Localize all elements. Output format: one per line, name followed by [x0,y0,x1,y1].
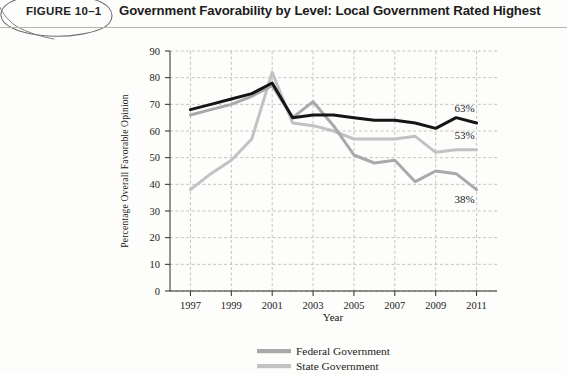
series-line-local-government [190,83,476,128]
end-value-label: 53% [455,129,475,141]
page-title: Government Favorability by Level: Local … [119,3,541,18]
y-axis-tick-labels: 0102030405060708090 [150,46,161,297]
y-tick-label: 30 [150,206,161,217]
figure-number: FIGURE 10–1 [26,5,102,17]
x-tick-label: 1997 [180,300,201,311]
x-tick-label: 2007 [384,300,405,311]
x-axis-title: Year [323,311,344,323]
y-tick-label: 0 [155,286,160,297]
x-tick-label: 2005 [343,300,364,311]
x-tick-label: 2009 [425,300,446,311]
legend-swatch [257,364,291,368]
y-tick-label: 50 [150,152,161,163]
data-series-group [190,72,476,189]
chart-legend: Federal GovernmentState Government [257,345,391,372]
y-tick-label: 10 [150,259,161,270]
y-axis-title: Percentage Overall Favorable Opinion [119,94,130,247]
y-tick-label: 20 [150,232,161,243]
axis-lines [170,51,497,291]
end-value-label: 63% [455,102,475,114]
y-axis-ticks [165,51,170,291]
y-tick-label: 80 [150,72,161,83]
y-tick-label: 70 [150,99,161,110]
legend-label: Federal Government [296,345,391,357]
y-tick-label: 90 [150,46,161,57]
legend-label: State Government [296,360,379,372]
chart-container: 0102030405060708090 19971999200120032005… [0,28,567,374]
end-value-label: 38% [455,193,475,205]
x-axis-ticks [190,291,476,296]
x-tick-label: 1999 [221,300,242,311]
figure-header: FIGURE 10–1 Government Favorability by L… [0,0,567,28]
x-tick-label: 2001 [262,300,283,311]
series-line-federal-government [190,86,476,190]
grid-lines-horizontal [170,51,497,291]
x-axis-tick-labels: 19971999200120032005200720092011 [180,300,487,311]
x-tick-label: 2011 [466,300,487,311]
y-tick-label: 60 [150,126,161,137]
x-tick-label: 2003 [303,300,324,311]
y-tick-label: 40 [150,179,161,190]
legend-swatch [257,349,291,353]
